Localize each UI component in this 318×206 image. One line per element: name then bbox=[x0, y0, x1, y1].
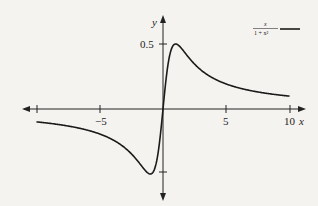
legend: x 1 + x² bbox=[253, 21, 300, 36]
tick-labels: −5 5 10 x 0.5 y bbox=[95, 16, 304, 127]
legend-denominator: 1 + x² bbox=[254, 30, 268, 36]
axes bbox=[22, 15, 306, 201]
chart-canvas: −5 5 10 x 0.5 y x 1 + x² bbox=[0, 0, 318, 206]
x-axis-right-arrow-icon bbox=[298, 106, 306, 112]
legend-numerator: x bbox=[263, 21, 267, 27]
y-tick-label-0.5: 0.5 bbox=[140, 38, 154, 50]
x-axis-label: x bbox=[298, 115, 304, 127]
y-axis-up-arrow-icon bbox=[160, 15, 166, 23]
y-axis-down-arrow-icon bbox=[160, 193, 166, 201]
x-axis-left-arrow-icon bbox=[22, 106, 30, 112]
x-tick-label-5: 5 bbox=[223, 115, 229, 127]
y-axis-label: y bbox=[151, 16, 157, 28]
x-tick-label-10: 10 bbox=[284, 115, 296, 127]
x-tick-label--5: −5 bbox=[95, 115, 107, 127]
